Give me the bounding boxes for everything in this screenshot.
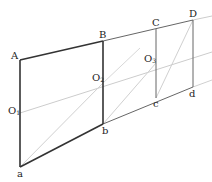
label-d: d bbox=[189, 89, 195, 99]
diagonal-O2-C bbox=[103, 48, 140, 83]
label-O3-sub: 3 bbox=[152, 57, 156, 64]
label-O2-main: O bbox=[92, 72, 100, 83]
diagonal-b-C bbox=[103, 63, 156, 124]
diagonal-a-B bbox=[20, 83, 103, 167]
diagonal-d-ext bbox=[193, 80, 212, 87]
label-a: a bbox=[17, 169, 23, 179]
label-C: C bbox=[152, 18, 160, 28]
perspective-diagram bbox=[0, 0, 212, 182]
edge-A-B bbox=[20, 41, 103, 60]
label-O1-sub: 1 bbox=[16, 109, 20, 116]
edge-B-D bbox=[103, 20, 193, 41]
label-A: A bbox=[11, 51, 18, 61]
label-O1-main: O bbox=[8, 105, 16, 116]
label-O1: O1 bbox=[8, 106, 20, 116]
center-line-o1-o3 bbox=[20, 52, 212, 113]
diagonal-c-D bbox=[156, 20, 193, 98]
label-O3: O3 bbox=[144, 54, 156, 64]
label-B: B bbox=[99, 30, 106, 40]
label-O3-main: O bbox=[144, 53, 152, 64]
edge-a-b bbox=[20, 124, 103, 167]
edge-b-d bbox=[103, 87, 193, 124]
label-D: D bbox=[189, 9, 197, 19]
label-O2-sub: 2 bbox=[100, 76, 104, 83]
label-O2: O2 bbox=[92, 73, 104, 83]
label-b: b bbox=[102, 126, 108, 136]
label-c: c bbox=[153, 99, 159, 109]
